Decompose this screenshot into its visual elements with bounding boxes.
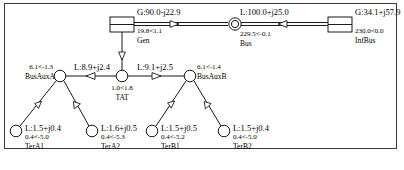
node-symbol-terb1[interactable] (146, 125, 158, 137)
node-symbol-busauxa[interactable] (54, 70, 66, 82)
flow-arrow-gen-bus (170, 21, 179, 28)
label-tat-voltage: 1.0<1.8 (111, 85, 132, 92)
branch-tat-busauxb[interactable] (128, 73, 184, 80)
label-busauxb-voltage: 6.1<-1.4 (197, 64, 221, 71)
infinite-bus-symbol-infbus[interactable] (328, 17, 352, 32)
branch-bus-infbus[interactable] (241, 21, 330, 28)
label-busauxb-name: BusAuxB (197, 73, 227, 81)
flow-arrow-tat-busauxb (152, 73, 161, 80)
node-symbol-tera2[interactable] (86, 125, 98, 137)
label-terb2-name: TerB2 (233, 143, 252, 151)
bus-symbol-bus[interactable] (229, 18, 241, 30)
generator-symbol-gen[interactable] (110, 17, 134, 32)
label-bus-flow: L:100.0+j25.0 (240, 8, 289, 17)
label-terb2-injection: L:1.5+j0.4 (233, 124, 269, 133)
branch-busauxa-tera2[interactable] (64, 81, 89, 126)
label-right-branch-flow: L:9.1+j2.5 (137, 63, 173, 72)
branch-busauxb-terb2[interactable] (194, 81, 221, 126)
branch-tat-busauxa[interactable] (66, 73, 116, 80)
node-symbol-tera1[interactable] (10, 125, 22, 137)
label-terb1-injection: L:1.5+j0.5 (161, 124, 197, 133)
label-left-branch-flow: L:8.9+j2.4 (74, 63, 110, 72)
label-tera2-voltage: 0.4<-5.3 (101, 134, 125, 141)
label-tera1-voltage: 0.4<-5.0 (25, 134, 49, 141)
label-busauxa-voltage: 6.1<-1.3 (29, 64, 53, 71)
label-busauxa-name: BusAuxA (25, 73, 55, 81)
node-symbol-tat[interactable] (116, 70, 128, 82)
label-gen-name: Gen (137, 37, 150, 45)
label-bus-voltage: 229.5<-0.1 (240, 31, 271, 38)
label-infbus-voltage: 230.0<0.0 (355, 28, 383, 35)
flow-arrow-bus-infbus (278, 21, 287, 28)
node-symbol-busauxb[interactable] (184, 70, 196, 82)
label-tat-name: TAT (115, 94, 128, 102)
label-terb2-voltage: 0.4<-5.0 (233, 134, 257, 141)
label-bus-name: Bus (240, 40, 252, 48)
branch-busauxa-tera1[interactable] (20, 81, 56, 126)
branch-gen-tat[interactable] (119, 32, 126, 76)
label-tera1-injection: L:1.5+j0.4 (25, 124, 61, 133)
label-infbus-name: InfBus (355, 37, 375, 45)
label-tera2-injection: L:1.6+j0.5 (101, 124, 137, 133)
label-gen-flow: G:90.0-j22.9 (137, 8, 180, 17)
label-tera1-name: TerA1 (25, 143, 44, 151)
flow-arrow-gen-tat (119, 52, 126, 60)
label-gen-voltage: 19.8<1.1 (137, 28, 162, 35)
branch-busauxb-terb1[interactable] (156, 81, 186, 126)
flow-arrow-tat-busauxa (86, 73, 95, 80)
label-terb1-voltage: 0.4<-5.2 (161, 134, 185, 141)
label-tera2-name: TerA2 (101, 143, 120, 151)
diagram-canvas (0, 0, 404, 170)
flow-arrow-busauxa-tera1 (35, 101, 42, 108)
node-symbol-terb2[interactable] (218, 125, 230, 137)
label-infbus-injection: G:34.1+j57.9 (355, 8, 400, 17)
diagram-screen: G:90.0-j22.9 19.8<1.1 Gen L:100.0+j25.0 … (0, 0, 404, 170)
label-terb1-name: TerB1 (161, 143, 180, 151)
